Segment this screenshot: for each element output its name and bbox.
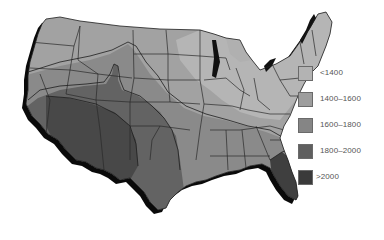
legend-item-1400-1600: 1400–1600	[296, 92, 384, 110]
legend-label: <1400	[320, 68, 343, 77]
legend-item-under-1400: <1400	[296, 66, 384, 84]
legend-item-1600-1800: 1600–1800	[296, 118, 384, 136]
legend-label: 1400–1600	[320, 94, 361, 103]
legend-swatch	[298, 144, 313, 159]
legend-swatch	[298, 170, 313, 185]
legend-item-1800-2000: 1800–2000	[296, 144, 384, 162]
legend-swatch	[298, 92, 313, 107]
legend-label: 1800–2000	[320, 146, 361, 155]
legend-swatch	[298, 118, 313, 133]
legend-label: 1600–1800	[320, 120, 361, 129]
legend-label: >2000	[316, 172, 339, 181]
legend-item-over-2000: >2000	[296, 170, 384, 188]
legend-swatch	[298, 66, 313, 81]
